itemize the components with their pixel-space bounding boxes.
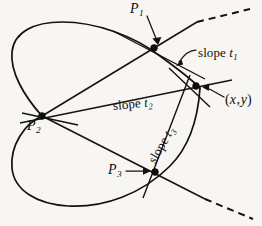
label-point-p2: P2: [27, 119, 41, 135]
arrowhead-p3: [143, 167, 151, 175]
label-p1-base: P: [130, 1, 139, 16]
point-marker-p1: [151, 45, 158, 52]
label-p3-base: P: [108, 162, 117, 177]
label-point-p3: P3: [108, 163, 122, 179]
label-slope-t1-subscript: 1: [233, 52, 237, 62]
label-slope-t1-word: slope: [198, 45, 226, 60]
label-slope-t2-subscript: 2: [148, 101, 153, 111]
label-xy-close-paren: ): [247, 92, 252, 107]
label-slope-t2-word: slope: [112, 95, 141, 113]
chord-p2-p3-dashed-extension: [205, 199, 253, 219]
label-point-p1: P1: [130, 2, 144, 18]
label-p1-subscript: 1: [139, 8, 144, 18]
diagram-canvas: [0, 0, 262, 226]
label-p3-subscript: 3: [117, 169, 122, 179]
label-p2-subscript: 2: [36, 125, 41, 135]
curve-upper-loop: [12, 22, 200, 116]
arrowhead-xy: [202, 83, 209, 91]
figure-root: P1 P2 P3 slope t1 slope t2 slope t3 (x,y…: [0, 0, 262, 226]
label-slope-t1: slope t1: [198, 46, 238, 61]
leader-line-xy: [207, 88, 224, 97]
label-p2-base: P: [27, 118, 36, 133]
label-point-xy: (x,y): [225, 93, 252, 107]
point-marker-p3: [152, 169, 159, 176]
chord-p2-p1-dashed-extension: [197, 9, 250, 22]
point-marker-xy: [193, 83, 200, 90]
chord-p2-p3: [42, 116, 205, 199]
leader-line-p1: [147, 16, 157, 41]
